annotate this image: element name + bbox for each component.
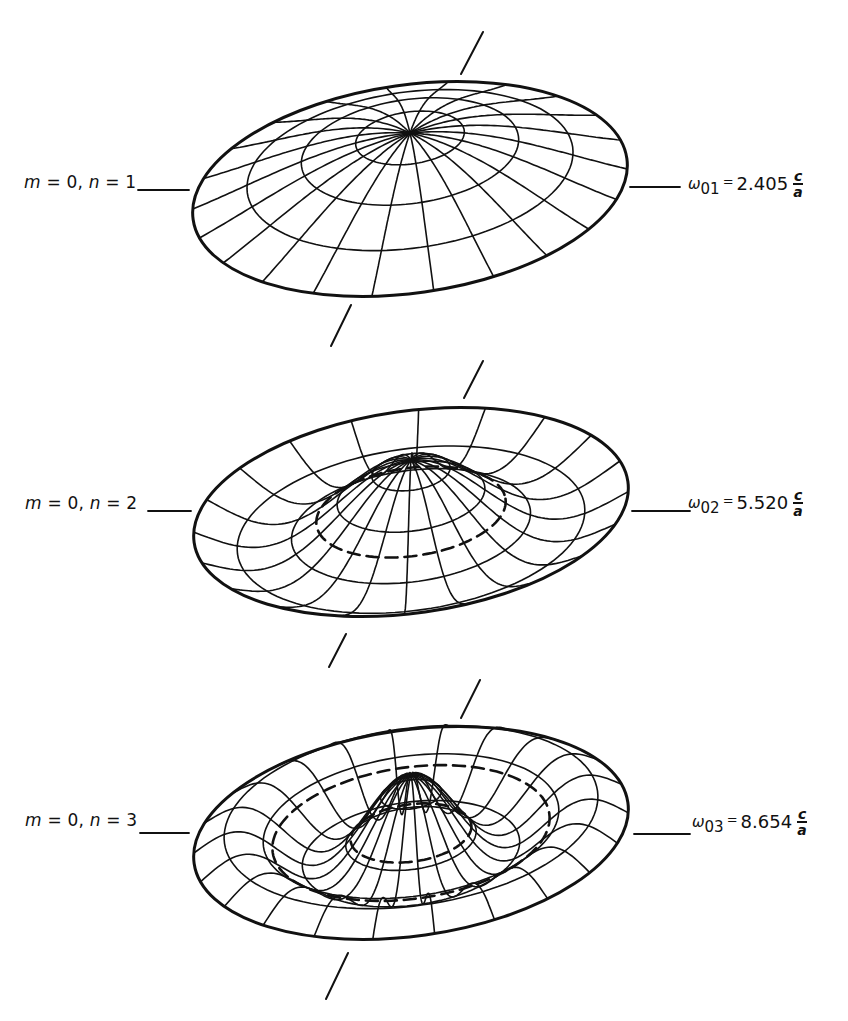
c-over-a-fraction: c a xyxy=(793,170,803,198)
radial-grid-line xyxy=(273,118,410,133)
omega-subscript: 01 xyxy=(701,180,720,198)
n-value: = 3 xyxy=(106,810,137,830)
mode-01-frequency: ω 01 = 2.405 c a xyxy=(688,170,803,198)
radial-grid-line xyxy=(337,460,411,616)
omega-subscript: 02 xyxy=(701,499,720,517)
radial-grid-line xyxy=(411,775,617,861)
m-symbol: m xyxy=(24,172,41,192)
m-symbol: m xyxy=(25,810,42,830)
membrane-rim xyxy=(179,56,642,323)
fraction-denominator: a xyxy=(797,824,806,836)
fraction-denominator: a xyxy=(793,505,802,517)
m-value: = 0, xyxy=(47,810,84,830)
radial-grid-line xyxy=(262,133,410,282)
fraction-numerator: c xyxy=(794,170,802,182)
m-value: = 0, xyxy=(46,172,83,192)
membrane-rim xyxy=(180,382,642,643)
equals-sign: = xyxy=(723,493,734,508)
axis-bottom-line xyxy=(326,953,348,999)
mode-03-frequency: ω 03 = 8.654 c a xyxy=(692,808,807,836)
mode-03-label: m = 0, n = 3 xyxy=(25,810,137,830)
axis-top-line xyxy=(461,680,480,718)
axis-top-line xyxy=(464,361,483,398)
mode-02-label: m = 0, n = 2 xyxy=(25,493,137,513)
axis-bottom-line xyxy=(331,305,351,346)
c-over-a-fraction: c a xyxy=(797,808,807,836)
axis-bottom-line xyxy=(329,634,346,667)
radial-grid-line xyxy=(193,133,410,209)
radial-grid-line xyxy=(403,460,411,615)
frequency-coefficient: 5.520 xyxy=(737,492,789,513)
mode-01-surface xyxy=(138,32,680,346)
axis-top-line xyxy=(461,32,483,74)
mode-02-frequency: ω 02 = 5.520 c a xyxy=(688,489,803,517)
omega-symbol: ω xyxy=(692,813,705,831)
n-value: = 1 xyxy=(105,172,136,192)
radial-grid-line xyxy=(410,114,597,133)
n-value: = 2 xyxy=(106,493,137,513)
radial-grid-line xyxy=(411,460,471,604)
m-symbol: m xyxy=(25,493,42,513)
omega-subscript: 03 xyxy=(705,818,724,836)
circular-grid-line xyxy=(224,726,598,909)
fraction-denominator: a xyxy=(793,186,802,198)
n-symbol: n xyxy=(89,172,100,192)
n-symbol: n xyxy=(90,493,101,513)
radial-grid-line xyxy=(410,133,547,256)
frequency-coefficient: 2.405 xyxy=(737,173,789,194)
m-value: = 0, xyxy=(47,493,84,513)
omega-symbol: ω xyxy=(688,175,701,193)
circular-grid-line xyxy=(301,98,518,205)
c-over-a-fraction: c a xyxy=(793,489,803,517)
n-symbol: n xyxy=(90,810,101,830)
equals-sign: = xyxy=(723,174,734,189)
fraction-numerator: c xyxy=(794,489,802,501)
mode-01-label: m = 0, n = 1 xyxy=(24,172,136,192)
omega-symbol: ω xyxy=(688,494,701,512)
mode-02-surface xyxy=(148,361,690,667)
frequency-coefficient: 8.654 xyxy=(741,811,793,832)
nodal-circle-dashed xyxy=(316,467,505,558)
mode-03-surface xyxy=(140,680,690,999)
fraction-numerator: c xyxy=(798,808,806,820)
equals-sign: = xyxy=(727,812,738,827)
radial-grid-line xyxy=(201,775,412,882)
radial-grid-line xyxy=(410,133,434,291)
